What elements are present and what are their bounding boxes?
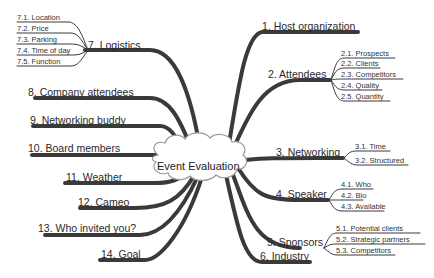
sub-time[interactable]: 3.1. Time xyxy=(355,143,386,151)
sub-available[interactable]: 4.3. Available xyxy=(341,203,385,211)
sub-price[interactable]: 7.2. Price xyxy=(17,25,49,33)
sub-parking[interactable]: 7.3. Parking xyxy=(17,36,57,44)
sub-function[interactable]: 7.5. Function xyxy=(17,58,60,66)
branch-sponsors[interactable]: 5. Sponsors xyxy=(267,237,323,248)
branch-who-invited-you[interactable]: 13. Who invited you? xyxy=(38,223,136,234)
central-topic[interactable]: Event Evaluation xyxy=(157,160,240,172)
sub-who[interactable]: 4.1. Who xyxy=(341,181,371,189)
sub-quality[interactable]: 2.4. Quality xyxy=(341,82,379,90)
branch-board-members[interactable]: 10. Board members xyxy=(28,143,120,154)
branch-networking[interactable]: 3. Networking xyxy=(276,147,340,158)
branch-industry[interactable]: 6. Industry xyxy=(260,251,309,262)
sub-strategic-partners[interactable]: 5.2. Strategic partners xyxy=(336,236,410,244)
sub-time-of-day[interactable]: 7.4. Time of day xyxy=(17,47,70,55)
sub-potential-clients[interactable]: 5.1. Potential clients xyxy=(336,225,403,233)
branch-attendees[interactable]: 2. Attendees xyxy=(268,69,326,80)
branch-company-attendees[interactable]: 8. Company attendees xyxy=(28,87,134,98)
branch-logistics[interactable]: 7. Logistics xyxy=(88,40,141,51)
sub-structured[interactable]: 3.2. Structured xyxy=(355,157,404,165)
branch-speaker[interactable]: 4. Speaker xyxy=(276,189,327,200)
branch-networking-buddy[interactable]: 9. Networking buddy xyxy=(30,115,126,126)
sub-prospects[interactable]: 2.1. Prospects xyxy=(341,50,389,58)
branch-goal[interactable]: 14. Goal xyxy=(101,249,141,260)
branch-host-organization[interactable]: 1. Host organization xyxy=(262,21,355,32)
sub-location[interactable]: 7.1. Location xyxy=(17,14,60,22)
sub-quantity[interactable]: 2.5. Quantity xyxy=(341,93,384,101)
branch-cameo[interactable]: 12. Cameo xyxy=(78,197,129,208)
sub-competitors[interactable]: 2.3. Competitors xyxy=(341,71,396,79)
sub-clients[interactable]: 2.2. Clients xyxy=(341,60,379,68)
sub-bio[interactable]: 4.2. Bio xyxy=(341,192,366,200)
central-cloud xyxy=(152,133,246,181)
sub-competitors-sponsors[interactable]: 5.3. Competitors xyxy=(336,247,391,255)
branch-weather[interactable]: 11. Weather xyxy=(66,172,122,183)
